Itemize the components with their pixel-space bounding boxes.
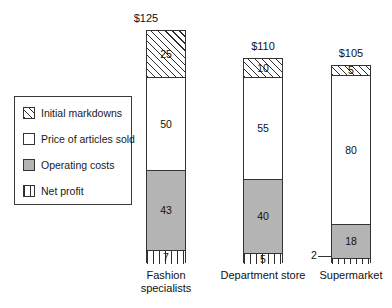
chart-legend: Initial markdowns Price of articles sold… (14, 96, 132, 205)
bar-supermarket: 5 80 18 (331, 65, 371, 263)
bar-fashion-specialists: 25 50 43 7 (146, 30, 186, 263)
segment-value: 80 (345, 145, 357, 156)
segment-value: 55 (257, 123, 269, 134)
external-value-label-net-profit: 2 (311, 250, 317, 261)
legend-item-label: Price of articles sold (41, 133, 135, 145)
category-label-line: specialists (106, 282, 226, 295)
segment-initial-markdowns: 25 (147, 31, 185, 78)
segment-value: 7 (163, 252, 169, 263)
leader-line (318, 256, 331, 257)
legend-item-operating-costs: Operating costs (23, 158, 115, 172)
segment-value: 43 (160, 205, 172, 216)
bar-total-label: $110 (223, 40, 303, 52)
segment-value: 50 (160, 119, 172, 130)
segment-net-profit: 7 (147, 251, 185, 264)
segment-operating-costs: 40 (244, 180, 282, 254)
white-swatch-icon (23, 133, 35, 145)
segment-value: 10 (257, 63, 269, 74)
bar-department-store: 10 55 40 5 (243, 58, 283, 263)
segment-price-of-articles-sold: 55 (244, 78, 282, 180)
stacked-bar-chart: Initial markdowns Price of articles sold… (0, 0, 392, 308)
segment-net-profit (332, 259, 370, 264)
legend-item-label: Operating costs (41, 159, 115, 171)
gray-swatch-icon (23, 159, 35, 171)
legend-item-label: Net profit (41, 185, 84, 197)
category-label-line: Supermarket (291, 269, 392, 282)
segment-net-profit: 5 (244, 254, 282, 264)
hatch-swatch-icon (23, 107, 35, 119)
segment-price-of-articles-sold: 80 (332, 76, 370, 225)
bar-total-label: $125 (106, 12, 186, 24)
category-label-supermarket: Supermarket (291, 269, 392, 282)
legend-item-net-profit: Net profit (23, 184, 84, 198)
segment-operating-costs: 43 (147, 171, 185, 251)
segment-value: 18 (345, 236, 357, 247)
segment-price-of-articles-sold: 50 (147, 78, 185, 171)
stripe-swatch-icon (23, 185, 35, 197)
segment-value: 25 (160, 49, 172, 60)
segment-value: 5 (260, 254, 266, 265)
segment-value: 5 (348, 65, 354, 76)
legend-item-label: Initial markdowns (41, 107, 122, 119)
segment-operating-costs: 18 (332, 225, 370, 259)
segment-value: 40 (257, 211, 269, 222)
legend-item-initial-markdowns: Initial markdowns (23, 106, 122, 120)
segment-initial-markdowns: 10 (244, 59, 282, 78)
legend-item-price-of-articles-sold: Price of articles sold (23, 132, 135, 146)
segment-initial-markdowns: 5 (332, 66, 370, 76)
bar-total-label: $105 (311, 47, 391, 59)
